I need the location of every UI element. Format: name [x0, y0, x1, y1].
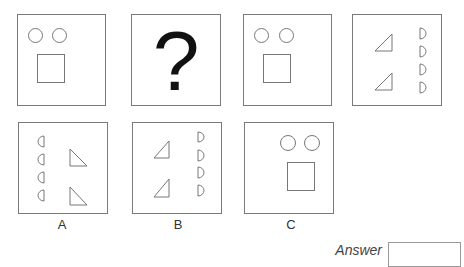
- option-b-label: B: [168, 217, 188, 232]
- answer-input[interactable]: [388, 242, 461, 267]
- square-shape: [263, 54, 291, 83]
- half-circles-and-triangles-icon: [19, 123, 109, 215]
- square-shape: [287, 162, 315, 191]
- circle-shape: [304, 135, 320, 151]
- question-mark: ?: [132, 17, 220, 105]
- question-panel-2: ?: [131, 14, 221, 106]
- circle-shape: [28, 28, 43, 43]
- option-b-panel[interactable]: [132, 122, 222, 214]
- circle-shape: [254, 28, 269, 43]
- option-c-panel[interactable]: [244, 122, 334, 214]
- square-shape: [37, 54, 65, 83]
- option-c-label: C: [281, 217, 301, 232]
- triangles-and-half-circles-icon: [353, 15, 443, 107]
- triangles-and-half-circles-icon: [133, 123, 223, 215]
- answer-label: Answer: [334, 242, 382, 258]
- option-a-label: A: [52, 217, 72, 232]
- option-a-panel[interactable]: [18, 122, 108, 214]
- question-panel-1: [17, 14, 106, 106]
- circle-shape: [280, 135, 296, 151]
- question-panel-4: [352, 14, 442, 106]
- question-panel-3: [243, 14, 332, 106]
- circle-shape: [52, 28, 67, 43]
- circle-shape: [279, 28, 294, 43]
